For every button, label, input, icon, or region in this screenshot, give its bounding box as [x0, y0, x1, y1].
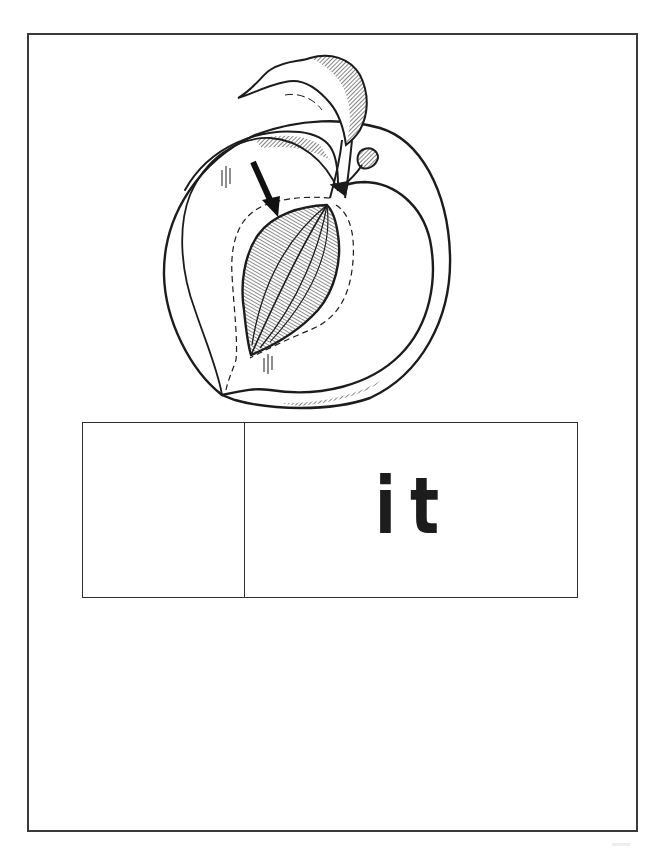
stem-icon — [330, 140, 378, 198]
scan-artifact — [612, 843, 630, 846]
blank-letter-cell[interactable] — [83, 423, 245, 597]
answer-box: it — [82, 422, 578, 598]
word-ending-text: it — [282, 467, 541, 545]
peach-pit-illustration — [0, 0, 663, 420]
peach-top-shading-icon — [255, 136, 330, 160]
peach-pit-icon — [243, 205, 340, 355]
word-ending-cell: it — [245, 423, 577, 597]
